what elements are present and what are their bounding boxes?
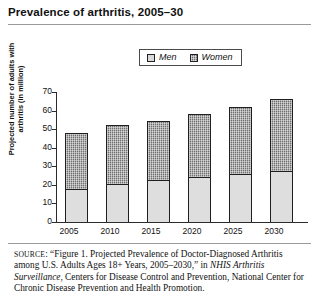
x-tick-label-2020: 2020	[172, 227, 212, 236]
bar-segment-women-2025	[229, 107, 252, 174]
y-tick-label-0: 0	[28, 217, 52, 226]
bar-2005	[65, 133, 88, 222]
y-tick-label-30: 30	[28, 161, 52, 170]
legend-swatch-women-icon	[190, 54, 198, 62]
legend-label-women: Women	[202, 53, 233, 62]
source-label: SOURCE	[14, 250, 45, 259]
figure-container: Prevalence of arthritis, 2005–30 Men Wom…	[0, 0, 320, 300]
divider-top	[8, 24, 311, 25]
y-tick-label-60: 60	[28, 106, 52, 115]
source-note: SOURCE: “Figure 1. Projected Prevalence …	[14, 249, 309, 295]
x-tick-label-2005: 2005	[49, 227, 89, 236]
bar-segment-men-2030	[270, 171, 293, 222]
bar-2025	[229, 107, 252, 222]
bar-segment-women-2015	[147, 121, 170, 180]
y-tick-label-20: 20	[28, 180, 52, 189]
x-axis-line	[56, 222, 308, 223]
bar-segment-women-2020	[188, 114, 211, 177]
bar-segment-men-2005	[65, 189, 88, 222]
chart-plot-area: Men Women Projected number of adults wit…	[0, 28, 320, 240]
x-tick-label-2015: 2015	[131, 227, 171, 236]
legend-item-men: Men	[147, 53, 177, 62]
bar-segment-men-2010	[106, 184, 129, 222]
legend-item-women: Women	[190, 53, 233, 62]
x-tick-label-2010: 2010	[90, 227, 130, 236]
y-tick-label-10: 10	[28, 198, 52, 207]
bar-2020	[188, 114, 211, 222]
bar-segment-men-2025	[229, 174, 252, 222]
bar-segment-women-2010	[106, 125, 129, 184]
bar-segment-men-2020	[188, 177, 211, 222]
legend-swatch-men-icon	[147, 54, 155, 62]
bar-2010	[106, 125, 129, 222]
divider-bottom	[8, 243, 311, 244]
bar-2015	[147, 121, 170, 222]
bar-segment-women-2030	[270, 99, 293, 171]
bar-segment-men-2015	[147, 180, 170, 222]
y-tick-mark-0	[52, 222, 57, 223]
legend-label-men: Men	[159, 53, 177, 62]
bar-segment-women-2005	[65, 133, 88, 189]
y-tick-label-70: 70	[28, 87, 52, 96]
y-tick-label-50: 50	[28, 124, 52, 133]
y-tick-label-40: 40	[28, 143, 52, 152]
bar-2030	[270, 99, 293, 222]
chart-legend: Men Women	[139, 49, 242, 66]
x-tick-label-2025: 2025	[213, 227, 253, 236]
x-tick-label-2030: 2030	[254, 227, 294, 236]
y-axis-title: Projected number of adults with arthriti…	[7, 38, 25, 160]
page-title: Prevalence of arthritis, 2005–30	[8, 6, 183, 18]
bars-group	[57, 92, 308, 222]
